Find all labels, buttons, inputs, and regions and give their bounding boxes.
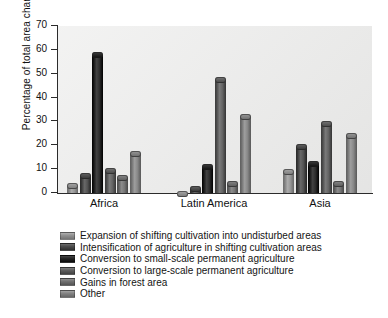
legend-item: Conversion to small-scale permanent agri… [60, 253, 360, 265]
legend-label: Intensification of agriculture in shifti… [80, 242, 322, 253]
legend-item: Other [60, 288, 360, 300]
bar-body [296, 147, 307, 193]
bar-cap-outline [321, 121, 332, 127]
bar-cap-outline [67, 183, 78, 189]
bar-body [321, 124, 332, 193]
chart-legend: Expansion of shifting cultivation into u… [60, 230, 360, 300]
bar [346, 133, 357, 193]
bar [130, 151, 141, 193]
bar [215, 77, 226, 193]
bar-cap-outline [308, 161, 319, 167]
legend-label: Expansion of shifting cultivation into u… [80, 230, 321, 241]
legend-swatch-icon [60, 255, 75, 263]
x-category-label-asia: Asia [260, 197, 380, 209]
bar [296, 144, 307, 193]
legend-label: Gains in forest area [80, 277, 167, 288]
bar [240, 114, 251, 193]
legend-swatch-icon [60, 232, 75, 240]
bar-cap-outline [117, 175, 128, 181]
legend-swatch-icon [60, 290, 75, 298]
legend-swatch-icon [60, 278, 75, 286]
legend-label: Conversion to large-scale permanent agri… [80, 265, 293, 276]
x-category-label-africa: Africa [44, 197, 164, 209]
bar-cap-outline [283, 169, 294, 175]
bar [117, 175, 128, 193]
bar-body [240, 117, 251, 193]
bar-cap-outline [80, 173, 91, 179]
legend-swatch-icon [60, 243, 75, 251]
bar-body [130, 154, 141, 193]
bar [80, 173, 91, 193]
bar-cap-outline [105, 168, 116, 174]
bar [227, 181, 238, 193]
bar-cap-outline [190, 186, 201, 192]
bar-body [283, 172, 294, 193]
bar-cap-outline [202, 164, 213, 170]
bar-chart-figure: 010203040506070 Percentage of total area… [0, 0, 388, 318]
bar [67, 183, 78, 193]
bar-body [92, 55, 103, 193]
legend-label: Other [80, 288, 105, 299]
bar-cap-outline [240, 114, 251, 120]
legend-item: Conversion to large-scale permanent agri… [60, 265, 360, 277]
bar [177, 191, 188, 193]
legend-item: Gains in forest area [60, 276, 360, 288]
bar-cap-outline [296, 144, 307, 150]
x-category-label-latin-america: Latin America [154, 197, 274, 209]
bar-body [215, 80, 226, 193]
bar [105, 168, 116, 193]
bar [308, 161, 319, 193]
bar-cap-outline [215, 77, 226, 83]
bar [283, 169, 294, 193]
bar [333, 181, 344, 193]
bar [202, 164, 213, 193]
legend-item: Expansion of shifting cultivation into u… [60, 230, 360, 242]
bar-cap-outline [177, 191, 188, 197]
bar-body [202, 167, 213, 193]
bar-cap-outline [346, 133, 357, 139]
legend-item: Intensification of agriculture in shifti… [60, 242, 360, 254]
bar [190, 186, 201, 193]
bar-body [105, 171, 116, 193]
bar [321, 121, 332, 193]
bar [92, 52, 103, 193]
bar-body [308, 164, 319, 193]
bar-cap-outline [92, 52, 103, 58]
bar-cap-outline [227, 181, 238, 187]
bar-cap-outline [333, 181, 344, 187]
bar-cap-outline [130, 151, 141, 157]
bar-body [346, 136, 357, 193]
legend-label: Conversion to small-scale permanent agri… [80, 253, 295, 264]
legend-swatch-icon [60, 267, 75, 275]
